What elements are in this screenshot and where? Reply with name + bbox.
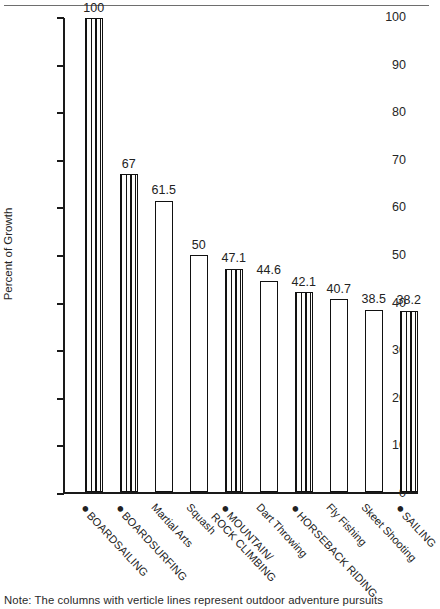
bar-value-label: 47.1	[216, 252, 252, 265]
bar-value-label: 100	[76, 2, 112, 15]
bar-series: 1006761.55047.144.642.140.738.538.2	[63, 18, 418, 492]
bar-value-label: 42.1	[286, 276, 322, 289]
x-axis-line	[63, 492, 418, 494]
top-divider	[4, 5, 429, 6]
bar	[85, 18, 103, 492]
plot-area: 1009080706050403020100 1006761.55047.144…	[63, 18, 418, 494]
x-axis-label: ●MOUNTAIN/ROCK CLIMBING	[208, 501, 288, 584]
y-tick-mark	[57, 493, 64, 495]
bar	[155, 201, 173, 493]
bar-value-label: 40.7	[321, 283, 357, 296]
bar-value-label: 61.5	[146, 184, 182, 197]
bar	[120, 174, 138, 492]
bar	[225, 269, 243, 492]
y-axis-title: Percent of Growth	[2, 208, 14, 301]
bar-value-label: 38.2	[391, 294, 427, 307]
bar	[295, 292, 313, 492]
bar	[260, 281, 278, 492]
bar	[330, 299, 348, 492]
bar-value-label: 50	[181, 239, 217, 252]
bar	[365, 310, 383, 492]
bar-value-label: 44.6	[251, 264, 287, 277]
y-axis-title-host: Percent of Growth	[14, 18, 15, 494]
bar	[400, 311, 418, 492]
chart-note: Note: The columns with verticle lines re…	[4, 594, 383, 606]
bar-value-label: 38.5	[356, 293, 392, 306]
bar	[190, 255, 208, 492]
bar-value-label: 67	[111, 158, 147, 171]
x-axis-labels: ●BOARDSAILING●BOARDSURFINGMartial ArtsSq…	[63, 497, 418, 593]
